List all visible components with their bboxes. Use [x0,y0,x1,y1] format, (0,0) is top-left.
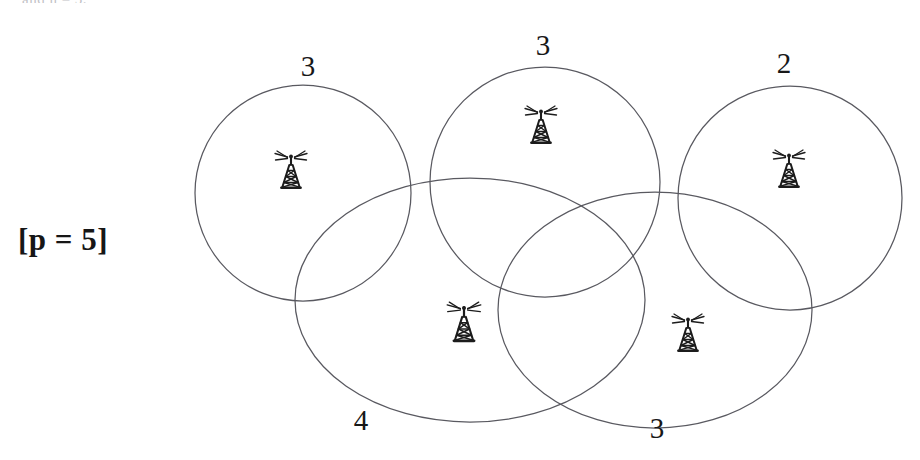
radio-tower-icon [672,314,704,351]
count-label-top-middle: 3 [536,31,551,60]
count-label-top-right: 2 [777,49,792,78]
radio-tower-icon [447,302,481,341]
radio-tower-icon [773,150,805,187]
coverage-diagram: and n = 5. [0,0,920,460]
count-label-bottom-left: 4 [354,406,369,435]
count-label-bottom-right: 3 [650,414,665,443]
coverage-circle-top-middle [430,67,660,297]
transmitter-towers [275,106,805,351]
coverage-circle-bottom-left [295,178,645,422]
coverage-circle-top-left [195,85,411,301]
radio-tower-icon [525,106,557,143]
radio-tower-icon [275,151,307,188]
coverage-circles [195,67,902,428]
count-label-top-left: 3 [301,52,316,81]
parameter-label: [p = 5] [18,222,108,258]
coverage-circle-bottom-right [498,192,812,428]
coverage-circle-top-right [678,86,902,310]
